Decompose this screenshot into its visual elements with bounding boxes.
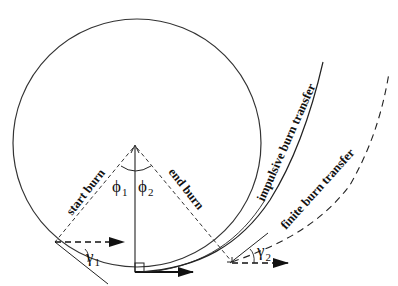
- gamma2-angle-arc: [250, 249, 254, 263]
- phi2-label: ϕ2: [138, 177, 153, 198]
- end-burn-radial-line: [137, 148, 232, 262]
- finite-transfer-label: finite burn transfer: [278, 145, 358, 232]
- gamma1-label: γ1: [85, 247, 100, 268]
- end-burn-label: end burn: [166, 165, 207, 212]
- gamma2-label: γ2: [256, 241, 271, 263]
- start-burn-label: start burn: [63, 166, 108, 218]
- start-burn-tangent: [55, 242, 108, 284]
- phi-angle-arc: [121, 166, 151, 171]
- initial-orbit-circle: [13, 19, 261, 267]
- impulsive-transfer-trajectory-inner: [150, 200, 265, 272]
- impulsive-transfer-trajectory: [140, 62, 323, 272]
- impulsive-transfer-label: impulsive burn transfer: [254, 81, 319, 203]
- orbit-transfer-diagram: ϕ1 ϕ2 start burn end burn γ1 impulsive b…: [0, 0, 398, 286]
- phi1-label: ϕ1: [112, 177, 127, 198]
